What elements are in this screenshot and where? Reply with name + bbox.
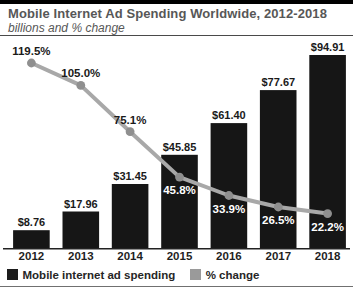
- legend-item-spending: Mobile internet ad spending: [7, 269, 175, 281]
- pct-label-2018: 22.2%: [311, 221, 344, 233]
- chart-card: Mobile Internet Ad Spending Worldwide, 2…: [0, 0, 353, 293]
- x-axis-label-2013: 2013: [68, 250, 94, 262]
- pct-label-2015: 45.8%: [163, 184, 196, 196]
- bar-2018: [309, 55, 346, 248]
- x-axis-label-2014: 2014: [117, 250, 143, 262]
- legend-label-spending: Mobile internet ad spending: [23, 269, 176, 281]
- legend-label-pct-change: % change: [206, 269, 260, 281]
- pct-change-marker-2017: [274, 203, 283, 212]
- chart-plot-area: $8.762012$17.962013$31.452014$45.852015$…: [0, 0, 353, 293]
- x-axis-label-2017: 2017: [266, 250, 292, 262]
- bar-2015: [161, 155, 198, 248]
- pct-change-marker-2013: [76, 81, 85, 90]
- bar-value-label-2016: $61.40: [212, 109, 246, 121]
- x-axis-label-2016: 2016: [216, 250, 242, 262]
- bar-2016: [211, 123, 248, 248]
- pct-label-2016: 33.9%: [213, 203, 246, 215]
- pct-change-marker-2014: [126, 127, 135, 136]
- pct-change-marker-2012: [27, 59, 36, 68]
- pct-label-2012: 119.5%: [12, 45, 50, 57]
- bar-value-label-2013: $17.96: [64, 198, 98, 210]
- bar-value-label-2017: $77.67: [261, 76, 295, 88]
- pct-label-2017: 26.5%: [262, 214, 295, 226]
- bar-2014: [112, 184, 149, 248]
- legend-swatch-pct-change: [190, 269, 201, 280]
- bar-value-label-2018: $94.91: [311, 41, 345, 53]
- pct-change-marker-2018: [323, 209, 332, 218]
- x-axis-label-2018: 2018: [315, 250, 341, 262]
- legend: Mobile internet ad spending % change: [7, 268, 259, 281]
- pct-label-2014: 75.1%: [114, 114, 147, 126]
- x-axis-label-2015: 2015: [167, 250, 193, 262]
- bottom-divider-rule: [0, 286, 353, 288]
- bar-value-label-2015: $45.85: [163, 141, 197, 153]
- pct-change-marker-2015: [175, 173, 184, 182]
- legend-item-pct-change: % change: [190, 269, 259, 281]
- bar-value-label-2014: $31.45: [113, 170, 147, 182]
- legend-swatch-spending: [7, 269, 18, 280]
- pct-change-marker-2016: [225, 191, 234, 200]
- pct-label-2013: 105.0%: [61, 67, 100, 79]
- bar-2012: [13, 230, 50, 248]
- bar-2013: [63, 212, 100, 249]
- x-axis-label-2012: 2012: [19, 250, 45, 262]
- bar-value-label-2012: $8.76: [18, 216, 46, 228]
